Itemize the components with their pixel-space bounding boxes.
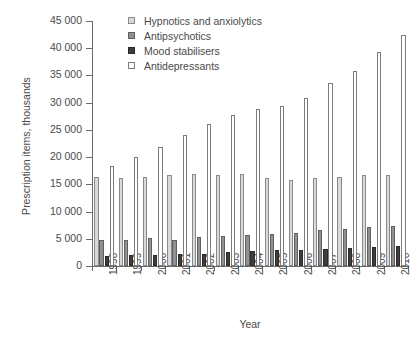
bar [158,147,162,266]
bar [323,249,327,266]
bar [289,180,293,266]
bar [178,254,182,266]
legend-swatch-icon [128,32,135,39]
bar [337,177,341,266]
bar [245,235,249,266]
y-tick: 25 000 [86,130,92,131]
bar [280,106,284,266]
bar [372,247,376,266]
bar [256,109,260,266]
y-tick: 5 000 [86,239,92,240]
bar [197,237,201,266]
bar [275,250,279,266]
y-tick-label: 20 000 [50,150,82,162]
y-tick-label: 35 000 [50,68,82,80]
bar [192,174,196,266]
bar [313,178,317,266]
bar-group-2009 [362,21,382,266]
bar [226,252,230,266]
y-tick-label: 40 000 [50,41,82,53]
bar-group-2008 [337,21,357,266]
y-tick: 15 000 [86,184,92,185]
legend-label: Antidepressants [144,60,219,72]
bar [348,248,352,266]
y-axis-title: Prescription items, thousands [20,36,32,256]
x-tick [92,266,93,271]
bar [167,175,171,266]
bar [129,255,133,266]
bar [328,83,332,266]
bar [396,246,400,266]
y-tick: 45 000 [86,21,92,22]
bar [221,236,225,266]
legend-swatch-icon [128,62,135,69]
bar [143,177,147,266]
y-tick: 35 000 [86,75,92,76]
bar [318,230,322,266]
bar [294,233,298,266]
bar [386,175,390,266]
bar-group-2007 [313,21,333,266]
bar [153,255,157,266]
legend-swatch-icon [128,47,135,54]
y-axis-line [92,21,93,266]
prescription-items-bar-chart: Prescription items, thousands 05 00010 0… [0,0,417,340]
bar [110,166,114,266]
bar [231,115,235,266]
y-tick-label: 10 000 [50,205,82,217]
bar [343,229,347,266]
chart-legend: Hypnotics and anxiolyticsAntipsychoticsM… [128,13,262,73]
bar [240,174,244,266]
bar [134,157,138,266]
bar [391,226,395,266]
bar [353,71,357,266]
bar [207,124,211,266]
bar-group-2010 [386,21,406,266]
y-tick-label: 5 000 [56,232,82,244]
y-tick: 30 000 [86,103,92,104]
x-axis-title: Year [92,318,408,330]
bar [401,35,405,266]
y-tick-label: 25 000 [50,123,82,135]
y-tick-label: 45 000 [50,14,82,26]
legend-item: Hypnotics and anxiolytics [128,13,262,28]
legend-item: Antipsychotics [128,28,262,43]
legend-label: Mood stabilisers [144,45,220,57]
legend-label: Antipsychotics [144,30,211,42]
y-tick-label: 0 [76,259,82,271]
bar [119,178,123,266]
bar [299,250,303,266]
bar-group-2005 [265,21,285,266]
bar [148,238,152,266]
bar [362,175,366,266]
bar [202,254,206,266]
y-tick: 10 000 [86,212,92,213]
legend-swatch-icon [128,17,135,24]
bar [124,240,128,266]
bar [265,178,269,266]
bar [270,234,274,266]
legend-label: Hypnotics and anxiolytics [144,15,262,27]
legend-item: Mood stabilisers [128,43,262,58]
y-tick: 20 000 [86,157,92,158]
bar [94,177,98,266]
bar [250,251,254,266]
bar [172,240,176,266]
bar-group-1998 [94,21,114,266]
y-tick-label: 15 000 [50,177,82,189]
bar-group-2006 [289,21,309,266]
bar [183,135,187,266]
bar [216,175,220,266]
legend-item: Antidepressants [128,58,262,73]
bar [377,52,381,266]
bar [99,240,103,266]
bar [367,227,371,266]
y-tick-label: 30 000 [50,96,82,108]
y-tick: 40 000 [86,48,92,49]
bar [304,98,308,266]
bar [105,256,109,266]
